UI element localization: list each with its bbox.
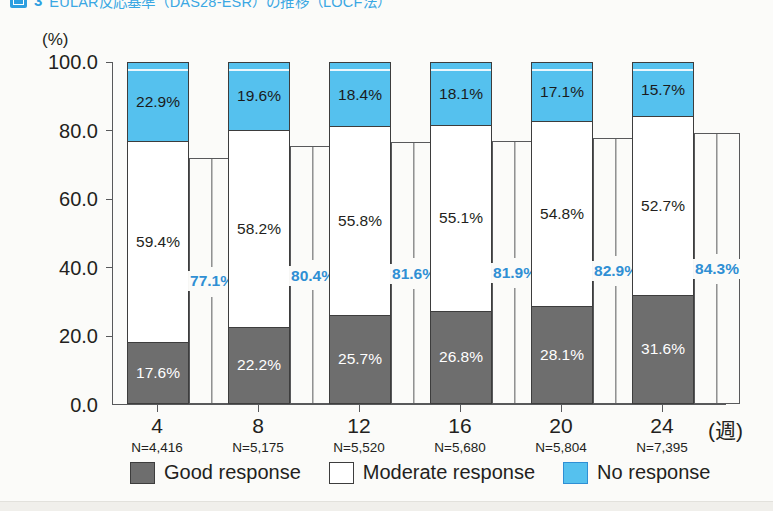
segment-good-label-week-4: 17.6% — [128, 364, 188, 382]
segment-good-week-12: 25.7% — [330, 316, 390, 403]
segment-good-label-week-12: 25.7% — [330, 350, 390, 368]
legend-label-no-response: No response — [597, 461, 710, 484]
segment-no-response-label-week-4: 22.9% — [128, 93, 188, 111]
y-axis-unit: (%) — [42, 30, 68, 50]
legend-swatch-moderate-response — [329, 462, 354, 484]
x-tick-week-16 — [460, 405, 461, 412]
combined-label-week-24: 84.3% — [693, 259, 741, 279]
figure-number: 3 — [34, 0, 42, 9]
segment-no-response-week-24: 15.7% — [633, 63, 693, 116]
segment-moderate-label-week-12: 55.8% — [330, 212, 390, 230]
y-tick-label-60: 60.0 — [59, 188, 98, 211]
segment-good-label-week-20: 28.1% — [532, 346, 592, 364]
segment-moderate-week-24: 52.7% — [633, 116, 693, 295]
segment-good-label-week-16: 26.8% — [431, 348, 491, 366]
figure-title-bar: 3 EULAR反応基準（DAS28-ESR）の推移（LOCF法） — [0, 0, 773, 13]
legend: Good response Moderate response No respo… — [130, 461, 711, 484]
segment-good-week-16: 26.8% — [431, 312, 491, 403]
x-label-week-20: 20 — [549, 414, 572, 438]
sample-size-week-24: N=7,395 — [636, 440, 687, 455]
x-label-week-16: 16 — [448, 414, 471, 438]
segment-good-label-week-8: 22.2% — [229, 356, 289, 374]
y-tick-20 — [106, 336, 113, 337]
x-label-week-4: 4 — [151, 414, 163, 438]
y-tick-label-40: 40.0 — [59, 256, 98, 279]
y-tick-label-100: 100.0 — [48, 51, 98, 74]
segment-moderate-label-week-8: 58.2% — [229, 220, 289, 238]
segment-moderate-week-16: 55.1% — [431, 125, 491, 312]
segment-no-response-label-week-12: 18.4% — [330, 86, 390, 104]
segment-no-response-label-week-24: 15.7% — [633, 81, 693, 99]
y-tick-label-80: 80.0 — [59, 119, 98, 142]
stacked-bar-week-12[interactable]: 25.7% 55.8% 18.4% — [329, 62, 391, 404]
bar-group-week-24: 31.6% 52.7% 15.7% 84.3% — [632, 62, 728, 404]
y-tick-100 — [106, 62, 113, 63]
segment-no-response-week-8: 19.6% — [229, 63, 289, 130]
x-label-week-24: 24 — [650, 414, 673, 438]
page-bottom-edge — [0, 501, 773, 511]
segment-moderate-label-week-24: 52.7% — [633, 197, 693, 215]
legend-item-moderate-response: Moderate response — [329, 461, 535, 484]
x-tick-week-8 — [258, 405, 259, 412]
segment-moderate-week-8: 58.2% — [229, 130, 289, 328]
legend-swatch-no-response — [563, 462, 588, 484]
sample-size-week-16: N=5,680 — [434, 440, 485, 455]
x-tick-week-4 — [157, 405, 158, 412]
sample-size-week-8: N=5,175 — [232, 440, 283, 455]
segment-no-response-week-4: 22.9% — [128, 63, 188, 141]
y-tick-label-0: 0.0 — [70, 394, 98, 417]
segment-no-response-week-16: 18.1% — [431, 63, 491, 125]
segment-good-week-4: 17.6% — [128, 343, 188, 403]
y-axis-labels: 100.0 80.0 60.0 40.0 20.0 0.0 — [0, 62, 106, 405]
bar-group-week-4: 17.6% 59.4% 22.9% 77.1% — [127, 62, 223, 404]
legend-label-good-response: Good response — [164, 461, 301, 484]
figure-title: EULAR反応基準（DAS28-ESR）の推移（LOCF法） — [49, 0, 391, 11]
bracket-foot-week-24 — [695, 403, 739, 404]
x-tick-week-24 — [662, 405, 663, 412]
y-tick-label-20: 20.0 — [59, 325, 98, 348]
sample-size-week-20: N=5,804 — [535, 440, 586, 455]
sample-size-week-12: N=5,520 — [333, 440, 384, 455]
segment-moderate-label-week-20: 54.8% — [532, 205, 592, 223]
segment-moderate-label-week-4: 59.4% — [128, 233, 188, 251]
legend-item-good-response: Good response — [130, 461, 301, 484]
x-axis-unit: (週) — [708, 414, 743, 444]
figure-page: 3 EULAR反応基準（DAS28-ESR）の推移（LOCF法） (%) 100… — [0, 0, 773, 511]
plot-area: 17.6% 59.4% 22.9% 77.1% 22.2% — [112, 62, 726, 405]
stacked-bar-week-16[interactable]: 26.8% 55.1% 18.1% — [430, 62, 492, 404]
segment-no-response-label-week-16: 18.1% — [431, 85, 491, 103]
segment-good-label-week-24: 31.6% — [633, 340, 693, 358]
segment-no-response-week-12: 18.4% — [330, 63, 390, 126]
combined-bracket-week-24: 84.3% — [694, 133, 740, 404]
legend-swatch-good-response — [130, 462, 155, 484]
y-tick-60 — [106, 199, 113, 200]
segment-good-week-8: 22.2% — [229, 328, 289, 403]
x-label-week-12: 12 — [347, 414, 370, 438]
segment-moderate-week-4: 59.4% — [128, 141, 188, 343]
y-tick-80 — [106, 130, 113, 131]
segment-no-response-week-20: 17.1% — [532, 63, 592, 121]
bar-group-week-20: 28.1% 54.8% 17.1% 82.9% — [531, 62, 627, 404]
x-tick-week-20 — [561, 405, 562, 412]
segment-no-response-label-week-8: 19.6% — [229, 87, 289, 105]
x-axis: 4 8 12 16 20 24 N=4,416 N=5,175 N=5,520 … — [112, 405, 726, 453]
segment-good-week-20: 28.1% — [532, 307, 592, 403]
segment-moderate-week-20: 54.8% — [532, 121, 592, 307]
segment-moderate-label-week-16: 55.1% — [431, 209, 491, 227]
sample-size-week-4: N=4,416 — [131, 440, 182, 455]
segment-moderate-week-12: 55.8% — [330, 126, 390, 316]
stacked-bar-week-24[interactable]: 31.6% 52.7% 15.7% — [632, 62, 694, 404]
bar-group-week-12: 25.7% 55.8% 18.4% 81.6% — [329, 62, 425, 404]
bar-group-week-8: 22.2% 58.2% 19.6% 80.4% — [228, 62, 324, 404]
bar-group-week-16: 26.8% 55.1% 18.1% 81.9% — [430, 62, 526, 404]
segment-no-response-label-week-20: 17.1% — [532, 83, 592, 101]
figure-badge-icon — [10, 0, 27, 8]
segment-good-week-24: 31.6% — [633, 296, 693, 403]
x-tick-week-12 — [359, 405, 360, 412]
x-label-week-8: 8 — [252, 414, 264, 438]
y-tick-40 — [106, 267, 113, 268]
legend-label-moderate-response: Moderate response — [363, 461, 535, 484]
stacked-bar-week-20[interactable]: 28.1% 54.8% 17.1% — [531, 62, 593, 404]
stacked-bar-week-8[interactable]: 22.2% 58.2% 19.6% — [228, 62, 290, 404]
stacked-bar-week-4[interactable]: 17.6% 59.4% 22.9% — [127, 62, 189, 404]
